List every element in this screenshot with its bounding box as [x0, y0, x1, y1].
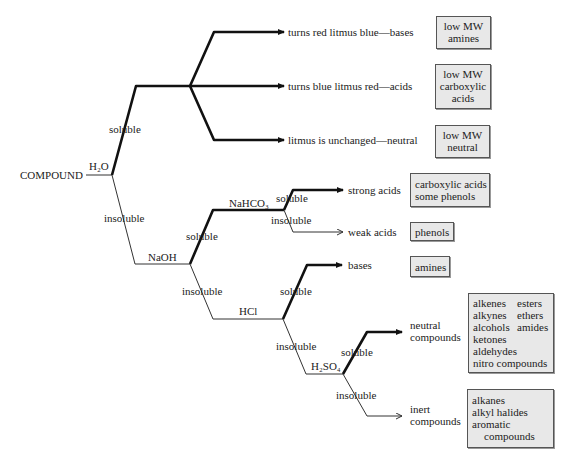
- box-line: ketones: [473, 333, 553, 345]
- litmus-neutral-arrow: [190, 86, 284, 140]
- box-low-mw-neutral: low MW neutral: [435, 125, 490, 158]
- box-line: phenols: [415, 226, 453, 238]
- box-line: carboxylic: [436, 80, 490, 92]
- box-neutral-compounds: alkenes esters alkynes ethers alcohols a…: [468, 293, 554, 373]
- inert-compounds-label-2: compounds: [410, 415, 461, 427]
- box-phenols: phenols: [410, 222, 454, 241]
- box-line: amines: [415, 261, 449, 273]
- litmus-bases-label: turns red litmus blue—bases: [288, 26, 414, 38]
- box-line: nitro compounds: [473, 357, 553, 369]
- box-line: neutral: [436, 141, 489, 153]
- box-low-mw-amines: low MW amines: [436, 16, 491, 49]
- h2so4-reagent-label: H₂SO₄: [311, 360, 341, 372]
- naoh-insoluble-label: insoluble: [182, 285, 222, 297]
- litmus-bases-arrow: [190, 32, 284, 86]
- neutral-compounds-label-2: compounds: [410, 331, 461, 343]
- box-line: acids: [436, 92, 490, 104]
- hcl-soluble-label: soluble: [280, 285, 312, 297]
- box-carboxylic-acids-some-phenols: carboxylic acids some phenols: [410, 173, 490, 207]
- nahco3-soluble-label: soluble: [276, 192, 308, 204]
- nahco3-reagent-label: NaHCO₃: [229, 197, 269, 209]
- h2so4-insoluble-label: insoluble: [336, 389, 376, 401]
- h2o-soluble-label: soluble: [109, 123, 141, 135]
- box-line: low MW: [437, 20, 490, 32]
- naoh-soluble-label: soluble: [186, 230, 218, 242]
- strong-acids-label: strong acids: [348, 184, 401, 196]
- box-low-mw-carboxylic-acids: low MW carboxylic acids: [435, 64, 491, 109]
- box-line: aldehydes: [473, 345, 553, 357]
- box-line: alcohols: [473, 321, 517, 333]
- box-line: compounds: [472, 430, 553, 442]
- hcl-insoluble-label: insoluble: [276, 340, 316, 352]
- box-line: amines: [437, 32, 490, 44]
- box-line: alkyl halides: [472, 406, 553, 418]
- box-line: alkenes: [473, 297, 517, 309]
- naoh-reagent-label: NaOH: [148, 251, 177, 263]
- box-line: ethers: [517, 309, 553, 321]
- litmus-neutral-label: litmus is unchanged—neutral: [288, 134, 418, 146]
- bases-label: bases: [348, 259, 372, 271]
- h2o-reagent-label: H₂O: [89, 160, 109, 172]
- box-line: aromatic: [472, 418, 553, 430]
- box-line: low MW: [436, 129, 489, 141]
- litmus-acids-label: turns blue litmus red—acids: [288, 80, 412, 92]
- box-line: amides: [517, 321, 553, 333]
- box-line: esters: [517, 297, 553, 309]
- box-line: low MW: [436, 68, 490, 80]
- box-amines: amines: [410, 256, 450, 277]
- root-compound-label: COMPOUND: [20, 169, 83, 181]
- box-inert-compounds: alkanes alkyl halides aromatic compounds: [467, 389, 554, 448]
- nahco3-insoluble-label: insoluble: [271, 214, 311, 226]
- hcl-reagent-label: HCl: [239, 305, 257, 317]
- box-line: alkynes: [473, 309, 517, 321]
- h2o-insoluble-label: insoluble: [104, 212, 144, 224]
- box-line: some phenols: [415, 190, 489, 202]
- box-line: carboxylic acids: [415, 178, 489, 190]
- neutral-compounds-label-1: neutral: [410, 319, 441, 331]
- weak-acids-label: weak acids: [348, 226, 397, 238]
- box-line: alkanes: [472, 394, 553, 406]
- inert-compounds-label-1: inert: [410, 403, 430, 415]
- h2so4-soluble-label: soluble: [341, 346, 373, 358]
